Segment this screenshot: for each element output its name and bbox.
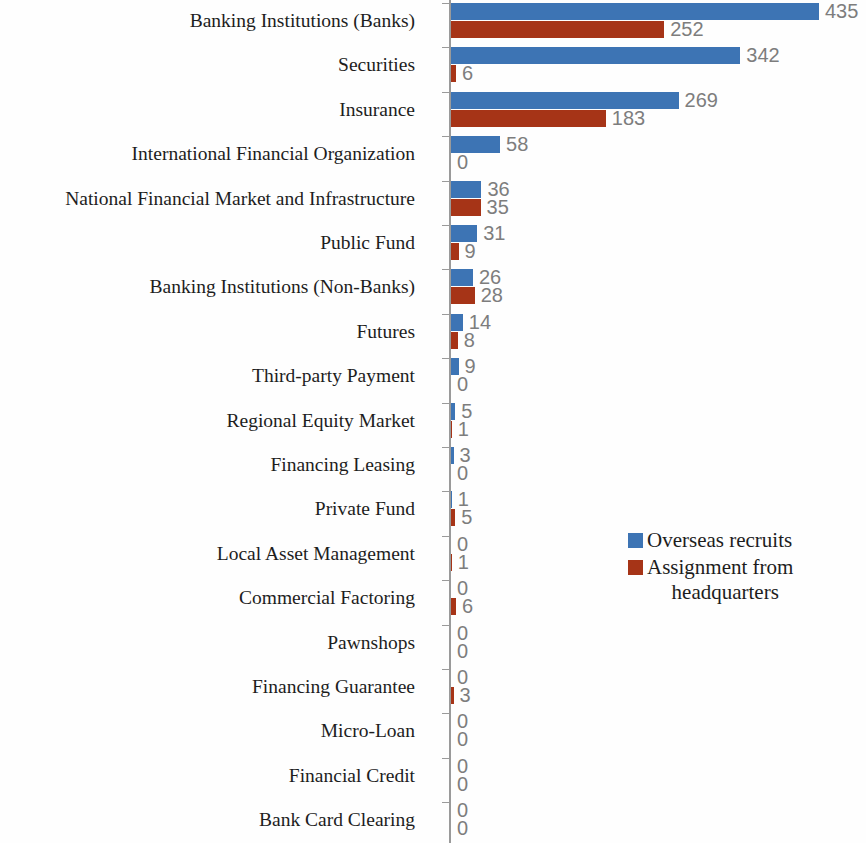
- category-row: Securities3426: [0, 47, 866, 91]
- axis-tick: [442, 536, 450, 537]
- bar-assignment-from-headquarters: [451, 554, 452, 571]
- category-row: Banking Institutions (Non-Banks)2628: [0, 269, 866, 313]
- legend-swatch-icon-overseas-recruits: [628, 533, 643, 548]
- bar-value-label: 0: [457, 776, 468, 793]
- bar-value-label: 6: [462, 598, 473, 615]
- bar-value-label: 5: [461, 509, 472, 526]
- category-label: Banking Institutions (Non-Banks): [0, 277, 415, 297]
- bar-overseas-recruits: [451, 3, 819, 20]
- legend-label-assignment-from-headquarters: Assignment from headquarters: [647, 555, 793, 605]
- axis-tick: [442, 181, 450, 182]
- bar-assignment-from-headquarters: [451, 110, 606, 127]
- bar-value-label: 0: [457, 731, 468, 748]
- axis-tick: [442, 314, 450, 315]
- bar-assignment-from-headquarters: [451, 421, 452, 438]
- bar-assignment-from-headquarters: [451, 243, 459, 260]
- chart-legend: Overseas recruits Assignment from headqu…: [628, 528, 858, 607]
- bar-overseas-recruits: [451, 403, 455, 420]
- bar-value-label: 0: [457, 154, 468, 171]
- axis-tick: [442, 625, 450, 626]
- category-row: Financing Leasing30: [0, 447, 866, 491]
- category-label: Insurance: [0, 100, 415, 120]
- bar-value-label: 9: [465, 243, 476, 260]
- legend-item-overseas-recruits: Overseas recruits: [628, 528, 858, 553]
- category-row: Public Fund319: [0, 225, 866, 269]
- bar-value-label: 28: [481, 287, 503, 304]
- category-label: Third-party Payment: [0, 366, 415, 386]
- axis-tick: [442, 269, 450, 270]
- bar-overseas-recruits: [451, 491, 452, 508]
- bar-overseas-recruits: [451, 181, 481, 198]
- category-label: Pawnshops: [0, 633, 415, 653]
- category-label: Regional Equity Market: [0, 411, 415, 431]
- bar-assignment-from-headquarters: [451, 65, 456, 82]
- bar-assignment-from-headquarters: [451, 598, 456, 615]
- bar-value-label: 183: [612, 110, 645, 127]
- bar-assignment-from-headquarters: [451, 199, 481, 216]
- bar-value-label: 58: [506, 136, 528, 153]
- category-row: Futures148: [0, 314, 866, 358]
- legend-swatch-icon-assignment-from-headquarters: [628, 560, 643, 575]
- axis-tick: [442, 3, 450, 4]
- bar-value-label: 1: [458, 421, 469, 438]
- bar-value-label: 435: [825, 3, 858, 20]
- axis-tick: [442, 491, 450, 492]
- bar-value-label: 0: [457, 820, 468, 837]
- category-row: Insurance269183: [0, 92, 866, 136]
- axis-tick: [442, 92, 450, 93]
- bar-overseas-recruits: [451, 47, 740, 64]
- bar-overseas-recruits: [451, 269, 473, 286]
- category-label: Banking Institutions (Banks): [0, 11, 415, 31]
- bar-value-label: 269: [685, 92, 718, 109]
- category-label: Financing Guarantee: [0, 677, 415, 697]
- bar-assignment-from-headquarters: [451, 287, 475, 304]
- axis-tick: [442, 669, 450, 670]
- bar-value-label: 0: [457, 465, 468, 482]
- bar-value-label: 31: [483, 225, 505, 242]
- category-row: Pawnshops00: [0, 625, 866, 669]
- category-label: International Financial Organization: [0, 144, 415, 164]
- axis-tick: [442, 225, 450, 226]
- plot-area: Banking Institutions (Banks)435252Securi…: [0, 0, 866, 843]
- category-label: National Financial Market and Infrastruc…: [0, 189, 415, 209]
- category-row: Regional Equity Market51: [0, 403, 866, 447]
- bar-value-label: 0: [457, 643, 468, 660]
- category-label: Securities: [0, 55, 415, 75]
- bar-value-label: 8: [464, 332, 475, 349]
- category-row: Micro-Loan00: [0, 713, 866, 757]
- bar-assignment-from-headquarters: [451, 509, 455, 526]
- category-label: Public Fund: [0, 233, 415, 253]
- axis-tick: [442, 758, 450, 759]
- category-label: Commercial Factoring: [0, 588, 415, 608]
- axis-tick: [442, 447, 450, 448]
- axis-tick: [442, 358, 450, 359]
- legend-label-line1: Assignment from: [647, 555, 793, 579]
- bar-value-label: 0: [457, 376, 468, 393]
- bar-value-label: 252: [670, 21, 703, 38]
- axis-tick: [442, 47, 450, 48]
- legend-label-overseas-recruits: Overseas recruits: [647, 528, 792, 553]
- bar-value-label: 6: [462, 65, 473, 82]
- bar-overseas-recruits: [451, 447, 454, 464]
- bar-value-label: 3: [460, 687, 471, 704]
- bar-chart: Banking Institutions (Banks)435252Securi…: [0, 0, 866, 843]
- bar-value-label: 342: [746, 47, 779, 64]
- category-row: Bank Card Clearing00: [0, 802, 866, 843]
- axis-tick: [442, 403, 450, 404]
- axis-tick: [442, 802, 450, 803]
- category-row: National Financial Market and Infrastruc…: [0, 181, 866, 225]
- bar-assignment-from-headquarters: [451, 687, 454, 704]
- axis-tick: [442, 136, 450, 137]
- category-label: Micro-Loan: [0, 721, 415, 741]
- axis-tick: [442, 580, 450, 581]
- bar-value-label: 1: [458, 554, 469, 571]
- bar-value-label: 35: [487, 199, 509, 216]
- category-row: International Financial Organization580: [0, 136, 866, 180]
- category-label: Financing Leasing: [0, 455, 415, 475]
- category-label: Local Asset Management: [0, 544, 415, 564]
- category-row: Banking Institutions (Banks)435252: [0, 3, 866, 47]
- category-row: Financing Guarantee03: [0, 669, 866, 713]
- category-label: Bank Card Clearing: [0, 810, 415, 830]
- category-label: Futures: [0, 322, 415, 342]
- legend-label-line2: headquarters: [647, 580, 793, 605]
